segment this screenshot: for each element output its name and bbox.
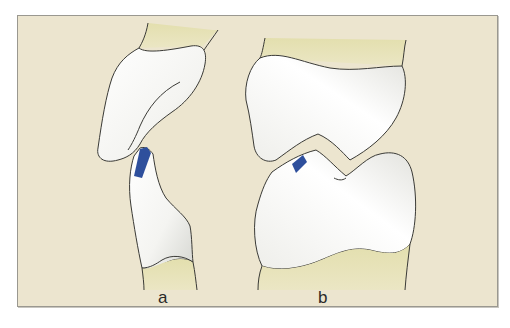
panel-b-lower-bone <box>255 150 416 269</box>
joint-diagram <box>0 0 510 328</box>
panel-a <box>98 23 218 290</box>
panel-b-label: b <box>318 288 327 308</box>
panel-b-upper-bone <box>246 55 406 161</box>
panel-a-upper-bone <box>98 46 206 162</box>
panel-b <box>246 38 416 290</box>
panel-a-upper-shaft <box>139 23 218 48</box>
panel-a-label: a <box>158 288 167 308</box>
